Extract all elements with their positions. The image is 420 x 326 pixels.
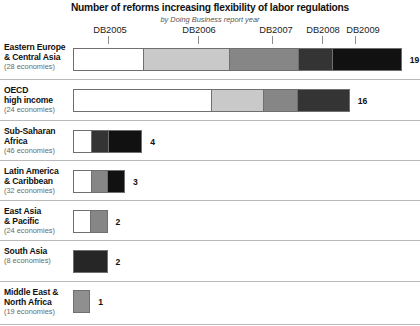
- row-label-line1: Eastern Europe: [4, 42, 70, 52]
- stacked-bar[interactable]: [73, 130, 142, 153]
- stacked-bar[interactable]: [73, 290, 90, 313]
- stacked-bar[interactable]: [73, 210, 108, 233]
- bar-segment-db2006[interactable]: [74, 291, 89, 312]
- row-label-line1: Sub-Saharan: [4, 126, 70, 136]
- chart-row: South Asia(8 economies)2: [0, 240, 420, 281]
- row-label-line1: South Asia: [4, 246, 70, 256]
- bar-segment-db2005[interactable]: [74, 131, 91, 152]
- row-economies-count: (8 economies): [4, 256, 70, 266]
- row-economies-count: (28 economies): [4, 62, 70, 72]
- stacked-bar[interactable]: [73, 250, 108, 273]
- bar-segment-db2009[interactable]: [74, 251, 107, 272]
- year-tick-db2009: [355, 36, 356, 44]
- chart-row: Middle East &North Africa(19 economies)1: [0, 281, 420, 326]
- year-tick-db2006: [198, 36, 199, 44]
- chart-row: Latin America& Caribbean(32 economies)3: [0, 160, 420, 200]
- row-label: Sub-SaharanAfrica(46 economies): [4, 126, 70, 156]
- row-label-line2: Africa: [4, 136, 70, 146]
- row-total-value: 4: [150, 137, 155, 147]
- row-label-line1: Latin America: [4, 166, 70, 176]
- row-economies-count: (32 economies): [4, 186, 70, 196]
- year-label-db2009: DB2009: [346, 25, 380, 35]
- year-axis-header: DB2005DB2006DB2007DB2008DB2009: [0, 25, 420, 39]
- row-label: Latin America& Caribbean(32 economies): [4, 166, 70, 196]
- row-total-value: 1: [98, 297, 103, 307]
- year-label-db2007: DB2007: [259, 25, 293, 35]
- row-label: Eastern Europe& Central Asia(28 economie…: [4, 42, 70, 72]
- row-label: Middle East &North Africa(19 economies): [4, 287, 70, 317]
- stacked-bar[interactable]: [73, 48, 402, 71]
- chart-row: Sub-SaharanAfrica(46 economies)4: [0, 120, 420, 160]
- row-economies-count: (19 economies): [4, 307, 70, 317]
- bar-segment-db2007[interactable]: [263, 90, 297, 111]
- bar-segment-db2005[interactable]: [74, 171, 91, 192]
- stacked-bar[interactable]: [73, 170, 125, 193]
- bar-segment-db2009[interactable]: [332, 49, 401, 70]
- row-label-line2: & Central Asia: [4, 52, 70, 62]
- row-label-line1: Middle East &: [4, 287, 70, 297]
- bar-segment-db2007[interactable]: [90, 211, 106, 232]
- chart-container: Number of reforms increasing flexibility…: [0, 0, 420, 326]
- chart-row: Eastern Europe& Central Asia(28 economie…: [0, 39, 420, 79]
- row-label: South Asia(8 economies): [4, 246, 70, 266]
- row-label-line2: & Pacific: [4, 216, 70, 226]
- bar-segment-db2007[interactable]: [229, 49, 298, 70]
- chart-subtitle: by Doing Business report year: [0, 15, 420, 24]
- chart-row: OECDhigh income(24 economies)16: [0, 79, 420, 120]
- year-tick-db2005: [108, 36, 109, 44]
- bar-segment-db2009[interactable]: [108, 131, 142, 152]
- year-label-db2008: DB2008: [306, 25, 340, 35]
- bar-segment-db2006[interactable]: [211, 90, 263, 111]
- row-economies-count: (46 economies): [4, 146, 70, 156]
- chart-row: East Asia& Pacific(24 economies)2: [0, 200, 420, 240]
- row-total-value: 2: [116, 217, 121, 227]
- year-label-db2005: DB2005: [93, 25, 127, 35]
- bar-segment-db2005[interactable]: [74, 211, 90, 232]
- year-tick-db2008: [322, 36, 323, 44]
- bar-segment-db2006[interactable]: [143, 49, 229, 70]
- row-label-line2: high income: [4, 95, 70, 105]
- bar-segment-db2007[interactable]: [91, 171, 108, 192]
- row-total-value: 2: [116, 257, 121, 267]
- row-label: OECDhigh income(24 economies): [4, 85, 70, 115]
- bar-segment-db2009[interactable]: [107, 171, 124, 192]
- row-total-value: 16: [358, 96, 368, 106]
- row-label-line1: East Asia: [4, 206, 70, 216]
- bar-segment-db2008[interactable]: [297, 90, 349, 111]
- row-total-value: 3: [133, 177, 138, 187]
- year-tick-db2007: [272, 36, 273, 44]
- row-label-line1: OECD: [4, 85, 70, 95]
- row-label-line2: North Africa: [4, 297, 70, 307]
- stacked-bar[interactable]: [73, 89, 350, 112]
- row-label: East Asia& Pacific(24 economies): [4, 206, 70, 236]
- bar-segment-db2005[interactable]: [74, 90, 211, 111]
- row-total-value: 19: [410, 55, 420, 65]
- bar-segment-db2008[interactable]: [91, 131, 108, 152]
- chart-baseline: [0, 324, 420, 325]
- row-label-line2: & Caribbean: [4, 176, 70, 186]
- row-economies-count: (24 economies): [4, 105, 70, 115]
- year-label-db2006: DB2006: [182, 25, 216, 35]
- chart-title: Number of reforms increasing flexibility…: [0, 2, 420, 13]
- bar-segment-db2005[interactable]: [74, 49, 143, 70]
- row-economies-count: (24 economies): [4, 226, 70, 236]
- bar-segment-db2008[interactable]: [298, 49, 332, 70]
